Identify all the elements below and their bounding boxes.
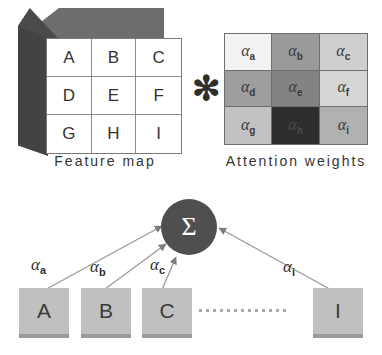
aggregation-figure: Σ A B C I αa αb αc αi — [0, 195, 382, 355]
attention-cell-i: αi — [320, 107, 367, 144]
feature-map-cell: C — [136, 39, 181, 77]
feature-map-figure: A B C D E F G H I — [8, 8, 184, 158]
token-box-i: I — [313, 288, 363, 338]
attention-weights-figure: αa αb αc αd αe αf αg αh αi — [224, 33, 368, 145]
feature-map-cell: H — [92, 115, 137, 153]
multiply-operator-icon: ✻ — [192, 74, 220, 102]
sigma-icon: Σ — [181, 214, 196, 240]
feature-map-cell: B — [92, 39, 137, 77]
feature-map-cell: A — [47, 39, 92, 77]
feature-map-cell: I — [136, 115, 181, 153]
attention-cell-a: αa — [225, 34, 272, 71]
sum-node: Σ — [161, 199, 217, 255]
cube-left-face-inner — [18, 26, 48, 156]
attention-cell-h: αh — [272, 107, 319, 144]
feature-map-cell: G — [47, 115, 92, 153]
attention-cell-f: αf — [320, 71, 367, 108]
feature-map-grid: A B C D E F G H I — [46, 38, 182, 154]
token-box-b: B — [81, 288, 131, 338]
attention-weights-grid: αa αb αc αd αe αf αg αh αi — [224, 33, 368, 145]
attention-cell-b: αb — [272, 34, 319, 71]
edge-label-alpha-b: αb — [90, 257, 106, 278]
attention-weights-caption: Attention weights — [216, 152, 376, 171]
attention-cell-g: αg — [225, 107, 272, 144]
edge-label-alpha-a: αa — [31, 255, 46, 276]
ellipsis-dots — [199, 309, 286, 312]
attention-cell-e: αe — [272, 71, 319, 108]
feature-map-cell: D — [47, 77, 92, 115]
edge-label-alpha-c: αc — [150, 255, 165, 276]
feature-map-cell: F — [136, 77, 181, 115]
edge-label-alpha-i: αi — [283, 257, 295, 278]
feature-map-caption: Feature map — [30, 152, 180, 171]
token-box-a: A — [19, 288, 69, 338]
feature-map-cell: E — [92, 77, 137, 115]
attention-cell-d: αd — [225, 71, 272, 108]
token-box-c: C — [142, 288, 192, 338]
attention-cell-c: αc — [320, 34, 367, 71]
